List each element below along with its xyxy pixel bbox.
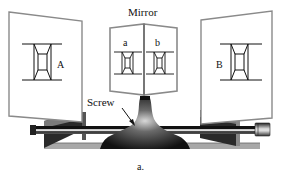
- panel-b: B: [201, 11, 272, 124]
- double-mirror: a b: [110, 24, 177, 95]
- panel-a: A: [9, 12, 82, 122]
- mirror-apparatus-diagram: A B: [0, 0, 281, 174]
- figure-caption: a.: [137, 161, 144, 172]
- mirror-label: Mirror: [128, 6, 158, 18]
- mirror-face-a-label: a: [123, 37, 128, 48]
- screw-pointer-arrow: [122, 108, 135, 126]
- panel-a-label: A: [57, 59, 65, 70]
- screw-label: Screw: [87, 96, 115, 108]
- adjustment-knob: [255, 123, 270, 136]
- mirror-face-b-label: b: [155, 37, 160, 48]
- panel-b-label: B: [216, 59, 223, 70]
